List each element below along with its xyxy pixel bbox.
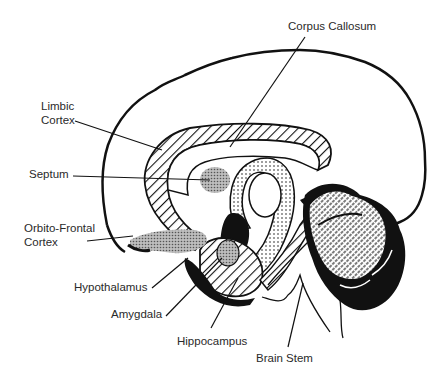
label-amygdala: Amygdala: [111, 308, 162, 321]
brain-illustration: [0, 0, 447, 383]
leader-orbito-frontal: [87, 236, 133, 241]
label-orbito-frontal-line1: Orbito-Frontal: [24, 222, 95, 235]
cerebellum-shape: [303, 184, 405, 310]
label-limbic-cortex-line2: Cortex: [41, 114, 75, 127]
label-hypothalamus: Hypothalamus: [74, 281, 148, 294]
amygdala-shape: [217, 240, 239, 266]
label-corpus-callosum: Corpus Callosum: [288, 20, 376, 33]
label-orbito-frontal-line2: Cortex: [24, 236, 58, 249]
label-hippocampus: Hippocampus: [177, 335, 247, 348]
leader-hypothalamus: [152, 258, 188, 288]
label-limbic-cortex-line1: Limbic: [41, 100, 74, 113]
label-septum: Septum: [29, 168, 69, 181]
brain-diagram: Corpus Callosum Limbic Cortex Septum Orb…: [0, 0, 447, 383]
label-brain-stem: Brain Stem: [256, 352, 313, 365]
